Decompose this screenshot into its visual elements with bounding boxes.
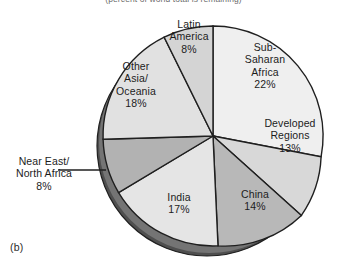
slice-label-line: Africa	[228, 66, 302, 78]
slice-label-line: Saharan	[228, 53, 302, 65]
slice-label-sub-saharan-africa: Sub- Saharan Africa 22%	[228, 41, 302, 91]
slice-value: 13%	[244, 142, 336, 154]
slice-label-latin-america: Latin America 8%	[156, 18, 222, 55]
slice-label-india: India 17%	[148, 191, 210, 216]
slice-label-line: North Africa	[2, 167, 86, 179]
slice-label-line: China	[224, 188, 286, 200]
slice-label-china: China 14%	[224, 188, 286, 213]
slice-label-line: America	[156, 30, 222, 42]
slice-value: 14%	[224, 200, 286, 212]
slice-label-line: Oceania	[100, 85, 172, 97]
slice-label-line: Sub-	[228, 41, 302, 53]
slice-value: 17%	[148, 203, 210, 215]
slice-label-other-asia-oceania: Other Asia/ Oceania 18%	[100, 60, 172, 110]
slice-label-near-east-north-africa: Near East/ North Africa 8%	[2, 155, 86, 192]
slice-label-line: Near East/	[2, 155, 86, 167]
slice-value: 8%	[2, 180, 86, 192]
slice-label-line: India	[148, 191, 210, 203]
figure-caption: (b)	[10, 241, 23, 253]
slice-label-line: Latin	[156, 18, 222, 30]
slice-value: 18%	[100, 97, 172, 109]
slice-label-line: Developed	[244, 117, 336, 129]
slice-label-developed-regions: Developed Regions 13%	[244, 117, 336, 154]
slice-label-line: Regions	[244, 129, 336, 141]
slice-label-line: Other	[100, 60, 172, 72]
pie-chart-figure: (percent of world total is remaining) Su…	[0, 0, 347, 278]
slice-value: 22%	[228, 78, 302, 90]
slice-label-line: Asia/	[100, 72, 172, 84]
slice-value: 8%	[156, 43, 222, 55]
